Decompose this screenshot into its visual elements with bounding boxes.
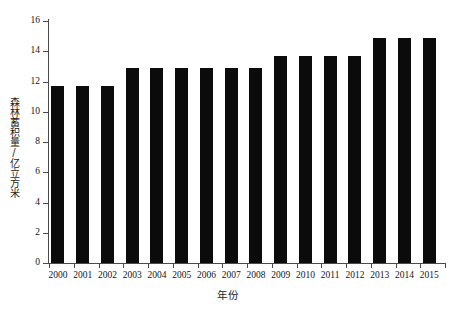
x-tick-mark xyxy=(49,264,50,268)
bar xyxy=(324,56,337,263)
y-tick-label-wrap: 8 xyxy=(10,137,40,147)
y-tick-label-wrap: 4 xyxy=(10,198,40,208)
bar xyxy=(101,86,114,263)
y-tick-label: 10 xyxy=(14,107,40,117)
x-tick-mark xyxy=(123,264,124,268)
x-tick-mark xyxy=(99,264,100,268)
y-tick-label: 12 xyxy=(14,77,40,87)
x-tick-mark xyxy=(198,264,199,268)
x-tick-mark xyxy=(272,264,273,268)
bar xyxy=(175,68,188,263)
bar xyxy=(200,68,213,263)
x-tick-mark xyxy=(173,264,174,268)
y-tick-label-wrap: 14 xyxy=(10,46,40,56)
x-axis-title: 年份 xyxy=(0,287,456,302)
bar xyxy=(76,86,89,263)
bar xyxy=(299,56,312,263)
y-tick-label-wrap: 0 xyxy=(10,258,40,268)
x-tick-mark xyxy=(247,264,248,268)
x-tick-mark xyxy=(346,264,347,268)
plot-area xyxy=(49,21,445,263)
y-tick-label-wrap: 16 xyxy=(10,16,40,26)
bar xyxy=(126,68,139,263)
x-tick-mark xyxy=(222,264,223,268)
y-tick-label-wrap: 12 xyxy=(10,77,40,87)
bar xyxy=(249,68,262,263)
x-tick-mark xyxy=(420,264,421,268)
bar xyxy=(150,68,163,263)
x-tick-mark xyxy=(297,264,298,268)
y-tick-label-wrap: 10 xyxy=(10,107,40,117)
y-tick-label: 6 xyxy=(14,167,40,177)
bar xyxy=(398,38,411,263)
y-tick-label: 2 xyxy=(14,228,40,238)
bar xyxy=(348,56,361,263)
x-tick-label: 2015 xyxy=(414,270,444,280)
x-tick-mark xyxy=(148,264,149,268)
y-tick-label: 16 xyxy=(14,16,40,26)
y-tick-label-wrap: 6 xyxy=(10,167,40,177)
x-tick-mark xyxy=(445,264,446,268)
bar-chart: 森林蓄积量/亿立方米 0246810121416 200020012002200… xyxy=(0,0,456,314)
y-tick-label-wrap: 2 xyxy=(10,228,40,238)
bar xyxy=(373,38,386,263)
y-tick-label: 8 xyxy=(14,137,40,147)
x-tick-mark xyxy=(396,264,397,268)
x-tick-mark xyxy=(74,264,75,268)
bar xyxy=(51,86,64,263)
x-tick-mark xyxy=(321,264,322,268)
bar xyxy=(423,38,436,263)
y-tick-label: 14 xyxy=(14,46,40,56)
x-tick-mark xyxy=(371,264,372,268)
y-tick-label: 0 xyxy=(14,258,40,268)
y-tick-label: 4 xyxy=(14,198,40,208)
bar xyxy=(225,68,238,263)
bar xyxy=(274,56,287,263)
